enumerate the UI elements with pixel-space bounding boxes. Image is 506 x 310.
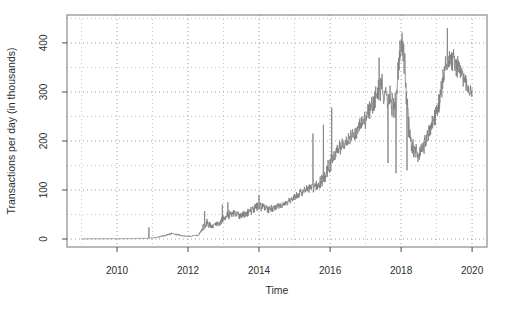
- y-tick-label: 100: [38, 181, 49, 198]
- y-tick-label: 300: [38, 83, 49, 100]
- y-axis-title: Transactions per day (in thousands): [5, 47, 17, 214]
- plot-box-border: [67, 15, 487, 247]
- x-tick-label: 2012: [177, 265, 200, 276]
- x-tick-label: 2018: [390, 265, 413, 276]
- x-tick-label: 2016: [319, 265, 342, 276]
- transactions-time-series-chart: 2010201220142016201820200100200300400 Ti…: [0, 0, 506, 310]
- y-tick-label: 400: [38, 34, 49, 51]
- r-time-series-figure: 2010201220142016201820200100200300400 Ti…: [0, 0, 506, 310]
- x-tick-label: 2014: [248, 265, 271, 276]
- plot-area: 2010201220142016201820200100200300400: [38, 15, 487, 276]
- x-axis-title: Time: [266, 284, 289, 296]
- x-tick-label: 2010: [106, 265, 129, 276]
- y-tick-label: 200: [38, 132, 49, 149]
- y-tick-label: 0: [38, 236, 49, 242]
- x-tick-label: 2020: [461, 265, 484, 276]
- transactions-series-line: [81, 28, 472, 239]
